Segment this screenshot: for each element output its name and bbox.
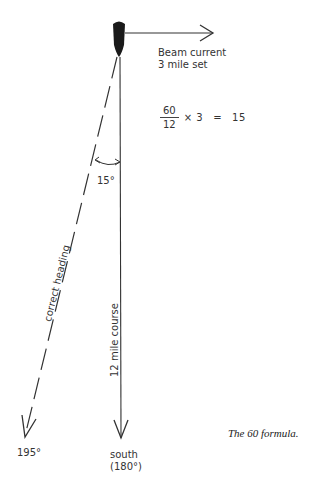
formula: 60 12 × 3 = 15 (160, 105, 246, 130)
course-line (120, 57, 121, 438)
current-label-line2: 3 mile set (158, 59, 207, 71)
course-label: 12 mile course (109, 303, 120, 377)
angle-arc-arrow-right (115, 159, 120, 165)
formula-denominator: 12 (163, 118, 176, 130)
heading-end-label: 195° (17, 447, 41, 459)
formula-equals: = (213, 112, 222, 123)
formula-result: 15 (232, 112, 246, 123)
current-label-line1: Beam current (158, 47, 226, 59)
course-end-label-line2: (180°) (110, 461, 142, 473)
angle-label: 15° (97, 175, 115, 187)
course-end-label-line1: south (110, 449, 138, 461)
formula-numerator: 60 (160, 105, 179, 118)
angle-arc-arrow-left (95, 157, 100, 163)
diagram-canvas (0, 0, 310, 487)
boat-icon (113, 22, 125, 58)
formula-multiplier: × 3 (184, 112, 203, 123)
figure-caption: The 60 formula. (228, 427, 299, 439)
formula-fraction: 60 12 (160, 105, 179, 130)
